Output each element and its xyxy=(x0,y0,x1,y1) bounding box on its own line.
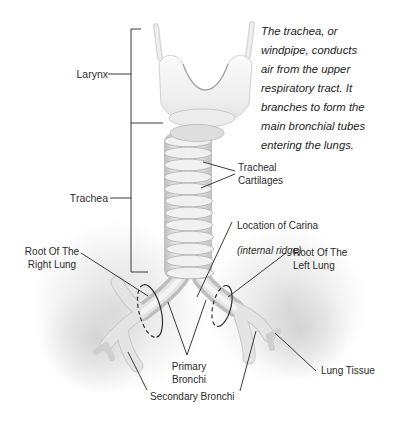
secondary-bronchi-label: Secondary Bronchi xyxy=(150,391,235,404)
primary-bronchi-label: Primary Bronchi xyxy=(157,361,221,386)
larynx-label: Larynx xyxy=(56,68,108,81)
larynx-illustration xyxy=(156,24,252,142)
lung-tissue-label: Lung Tissue xyxy=(321,365,375,378)
root-of-right-lung-label: Root Of The Right Lung xyxy=(23,246,81,271)
trachea-diagram: Larynx Trachea Tracheal Cartilages The t… xyxy=(0,0,400,433)
carina-label-line1: Location of Carina xyxy=(237,220,318,233)
trachea-label: Trachea xyxy=(58,192,108,205)
trachea-illustration xyxy=(165,134,214,279)
tracheal-cartilages-label: Tracheal Cartilages xyxy=(238,162,283,187)
root-of-left-lung-label: Root Of The Left Lung xyxy=(293,247,347,272)
description-paragraph: The trachea, or windpipe, conducts air f… xyxy=(261,22,395,155)
